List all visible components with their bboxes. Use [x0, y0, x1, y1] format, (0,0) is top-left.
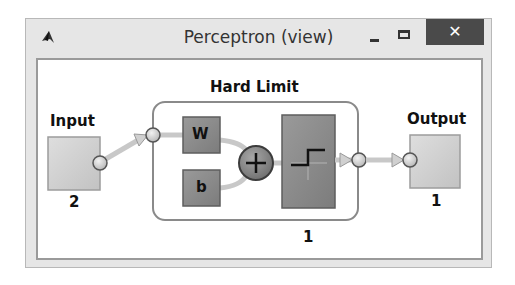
output-label: Output — [407, 110, 466, 128]
layer-input-port — [146, 128, 160, 142]
input-connector — [104, 139, 140, 160]
input-size: 2 — [69, 193, 79, 211]
input-label: Input — [50, 112, 95, 130]
arrow-icon — [340, 153, 352, 167]
layer-size: 1 — [303, 228, 313, 246]
layer-output-port — [352, 153, 366, 167]
arrow-icon — [392, 153, 404, 167]
network-diagram — [0, 0, 515, 285]
weight-label: W — [192, 125, 209, 143]
output-port — [403, 153, 417, 167]
w-to-sum — [220, 140, 246, 150]
input-port — [93, 156, 107, 170]
input-block[interactable] — [48, 137, 100, 190]
b-to-sum — [220, 176, 246, 188]
output-size: 1 — [431, 192, 441, 210]
bias-label: b — [196, 178, 207, 196]
layer-label: Hard Limit — [210, 78, 299, 96]
